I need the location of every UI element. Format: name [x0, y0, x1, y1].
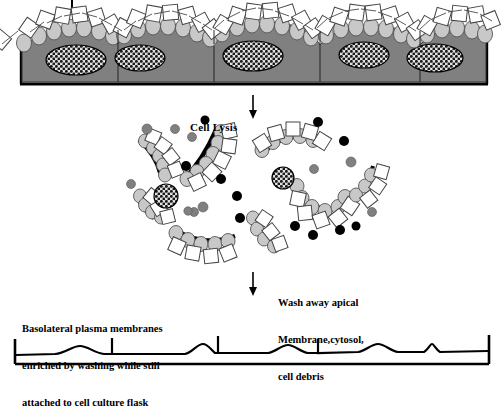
membrane-fragment	[290, 179, 360, 229]
middle-panel-lysed-fragments	[127, 116, 390, 264]
released-nucleus	[272, 167, 294, 189]
wash-away-arrow	[249, 272, 257, 296]
cell-lysis-arrow	[249, 95, 257, 119]
membrane-fragment	[350, 164, 390, 209]
basolateral-line-2: enriched by washing while still	[22, 360, 163, 372]
wash-away-line-3: cell debris	[278, 371, 364, 383]
membrane-fragment	[168, 226, 237, 264]
basolateral-line-1: Basolateral plasma membranes	[22, 323, 163, 335]
membrane-fragment	[252, 122, 331, 158]
basolateral-line-3: attached to cell culture flask	[22, 397, 163, 409]
released-nucleus	[154, 184, 178, 208]
wash-away-line-1: Wash away apical	[278, 297, 364, 309]
top-panel-intact-monolayer	[0, 0, 500, 84]
wash-away-line-2: Membrane,cytosol,	[278, 334, 364, 346]
basolateral-caption: Basolateral plasma membranes enriched by…	[22, 298, 163, 410]
membrane-fragment	[139, 128, 185, 182]
membrane-fragment	[247, 210, 289, 253]
fragment-cluster-right	[247, 117, 390, 253]
cell-lysis-text: Cell Lysis	[190, 121, 238, 134]
cell-lysis-label: Cell Lysis	[190, 95, 238, 160]
wash-away-label: Wash away apical Membrane,cytosol, cell …	[278, 272, 364, 408]
